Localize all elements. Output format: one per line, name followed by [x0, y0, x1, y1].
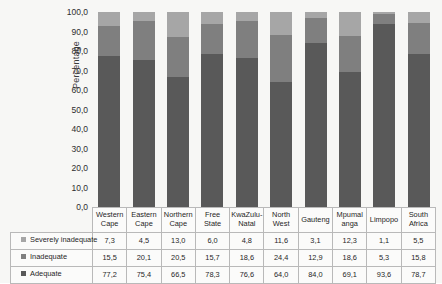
bar-segment[interactable]: [201, 24, 223, 55]
legend-item[interactable]: Inadequate: [11, 250, 93, 267]
table-cell-value: 13,0: [161, 233, 195, 250]
data-table: WesternCapeEasternCapeNorthernCapeFreeSt…: [10, 207, 436, 284]
legend-label: Inadequate: [30, 252, 67, 261]
data-table-wrapper: WesternCapeEasternCapeNorthernCapeFreeSt…: [10, 207, 436, 284]
bar-segment[interactable]: [408, 12, 430, 23]
bar-segment[interactable]: [305, 18, 327, 43]
stacked-bar[interactable]: [167, 12, 189, 207]
table-column-header: Limpopo: [367, 208, 401, 233]
y-axis-tick: 100,0: [36, 7, 88, 17]
table-column-header: Gauteng: [298, 208, 332, 233]
table-cell-value: 7,3: [93, 233, 127, 250]
bar-segment[interactable]: [167, 37, 189, 77]
table-corner-cell: [11, 208, 93, 233]
bar-segment[interactable]: [408, 54, 430, 207]
bar-slot: [298, 12, 332, 207]
bar-segment[interactable]: [133, 60, 155, 207]
stacked-bar[interactable]: [408, 12, 430, 207]
table-column-header: NorthWest: [264, 208, 298, 233]
legend-swatch-icon: [21, 254, 26, 259]
bar-segment[interactable]: [98, 56, 120, 207]
table-cell-value: 3,1: [298, 233, 332, 250]
bar-segment[interactable]: [408, 23, 430, 54]
table-row: Severely inadequate7,34,513,06,04,811,63…: [11, 233, 436, 250]
table-column-header: NorthernCape: [161, 208, 195, 233]
y-axis-tick-labels: 100,090,080,070,060,050,040,030,020,010,…: [36, 10, 88, 207]
bar-segment[interactable]: [98, 26, 120, 56]
legend-swatch-icon: [21, 237, 26, 242]
bar-segment[interactable]: [201, 54, 223, 207]
table-cell-value: 78,3: [195, 267, 229, 284]
table-cell-value: 20,5: [161, 250, 195, 267]
table-column-header: Mpumalanga: [333, 208, 367, 233]
y-axis-tick: 10,0: [36, 183, 88, 193]
table-cell-value: 84,0: [298, 267, 332, 284]
bar-segment[interactable]: [270, 12, 292, 35]
bar-segment[interactable]: [201, 12, 223, 24]
bar-segment[interactable]: [270, 82, 292, 207]
table-cell-value: 5,5: [401, 233, 435, 250]
bar-segment[interactable]: [373, 24, 395, 207]
stacked-bar[interactable]: [305, 12, 327, 207]
table-cell-value: 66,5: [161, 267, 195, 284]
stacked-bar[interactable]: [373, 12, 395, 207]
table-cell-value: 18,6: [333, 250, 367, 267]
bar-segment[interactable]: [339, 72, 361, 207]
stacked-bar[interactable]: [339, 12, 361, 207]
bar-segment[interactable]: [133, 21, 155, 60]
bar-segment[interactable]: [339, 36, 361, 72]
table-cell-value: 18,6: [230, 250, 264, 267]
y-axis-tick: 40,0: [36, 124, 88, 134]
table-cell-value: 12,3: [333, 233, 367, 250]
table-cell-value: 6,0: [195, 233, 229, 250]
legend-label: Adequate: [30, 269, 62, 278]
bar-slot: [333, 12, 367, 207]
legend-swatch-icon: [21, 271, 26, 276]
y-axis-tick: 20,0: [36, 163, 88, 173]
bar-segment[interactable]: [270, 35, 292, 83]
stacked-bar[interactable]: [98, 12, 120, 207]
bar-segment[interactable]: [236, 12, 258, 21]
plot-area: [92, 12, 436, 207]
table-cell-value: 78,7: [401, 267, 435, 284]
table-cell-value: 76,6: [230, 267, 264, 284]
bar-segment[interactable]: [236, 58, 258, 207]
table-cell-value: 24,4: [264, 250, 298, 267]
table-cell-value: 93,6: [367, 267, 401, 284]
stacked-bar[interactable]: [236, 12, 258, 207]
bar-segment[interactable]: [167, 77, 189, 207]
bar-segment[interactable]: [98, 12, 120, 26]
bar-segment[interactable]: [305, 43, 327, 207]
table-cell-value: 15,8: [401, 250, 435, 267]
bar-segment[interactable]: [167, 12, 189, 37]
table-column-header: SouthAfrica: [401, 208, 435, 233]
table-column-header: KwaZulu-Natal: [230, 208, 264, 233]
stacked-bar[interactable]: [270, 12, 292, 207]
stacked-bar[interactable]: [201, 12, 223, 207]
table-cell-value: 75,4: [127, 267, 161, 284]
table-cell-value: 20,1: [127, 250, 161, 267]
table-cell-value: 77,2: [93, 267, 127, 284]
bar-slot: [92, 12, 126, 207]
table-cell-value: 11,6: [264, 233, 298, 250]
legend-item[interactable]: Severely inadequate: [11, 233, 93, 250]
bar-segment[interactable]: [373, 14, 395, 24]
table-cell-value: 12,9: [298, 250, 332, 267]
stacked-bar[interactable]: [133, 12, 155, 207]
bar-slot: [230, 12, 264, 207]
y-axis-tick: 30,0: [36, 144, 88, 154]
table-column-header: EasternCape: [127, 208, 161, 233]
bar-slot: [402, 12, 436, 207]
table-row: Adequate77,275,466,578,376,664,084,069,1…: [11, 267, 436, 284]
bar-segment[interactable]: [133, 12, 155, 21]
y-axis-tick: 70,0: [36, 66, 88, 76]
table-column-header: WesternCape: [93, 208, 127, 233]
y-axis-tick: 80,0: [36, 46, 88, 56]
bar-segment[interactable]: [339, 12, 361, 36]
legend-item[interactable]: Adequate: [11, 267, 93, 284]
table-cell-value: 4,5: [127, 233, 161, 250]
table-cell-value: 15,5: [93, 250, 127, 267]
y-axis-tick: 50,0: [36, 105, 88, 115]
bar-segment[interactable]: [236, 21, 258, 57]
